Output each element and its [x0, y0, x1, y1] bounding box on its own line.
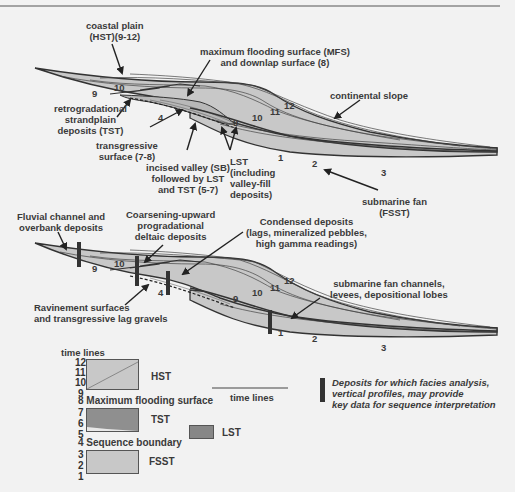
legend-lst-label: LST [222, 427, 241, 438]
legend-tst-label: TST [151, 414, 170, 425]
timeline-num: 10 [114, 258, 125, 269]
timeline-num: 2 [312, 333, 317, 344]
label-condensed: Condensed deposits (lags, mineralized pe… [246, 216, 367, 249]
legend-sb-label: 4 Sequence boundary [78, 437, 182, 448]
label-mfs: maximum flooding surface (MFS) and downl… [200, 46, 350, 68]
label-retrogradational: retrogradational strandplain deposits (T… [54, 103, 127, 136]
timeline-num: 12 [284, 100, 295, 111]
legend-num: 2 [78, 461, 84, 471]
legend-fsst-label: FSST [149, 456, 175, 467]
timeline-num: 1 [278, 152, 283, 163]
label-submarine-fan: submarine fan (FSST) [362, 196, 427, 218]
legend-mfs-label: 8 Maximum flooding surface [78, 395, 213, 406]
timeline-num: 10 [114, 82, 125, 93]
timeline-num: 1 [278, 327, 283, 338]
timeline-num: 4 [158, 287, 163, 298]
legend-num: 1 [78, 472, 84, 482]
timeline-num: 9 [233, 117, 238, 128]
label-lst: LST (including valley-fill deposits) [230, 156, 275, 200]
legend-num: 3 [78, 450, 84, 460]
profile-bar-3 [166, 271, 170, 295]
timeline-num: 3 [381, 167, 386, 178]
legend-num: 10 [75, 378, 86, 388]
label-ravinement: Ravinement surfaces and transgressive la… [34, 302, 168, 324]
label-fluvial: Fluvial channel and overbank deposits [17, 211, 105, 233]
timeline-num: 12 [284, 275, 295, 286]
profile-bar-4 [268, 310, 272, 334]
legend-lst-box [189, 425, 214, 439]
timeline-num: 2 [312, 158, 317, 169]
timeline-num: 9 [92, 88, 97, 99]
timeline-num: 9 [92, 263, 97, 274]
legend-tst-box [86, 408, 139, 432]
timeline-num: 10 [252, 112, 263, 123]
profile-bar-2 [135, 256, 139, 286]
timeline-num: 11 [270, 282, 280, 293]
label-transgressive-surface: transgressive surface (7-8) [96, 140, 158, 162]
label-continental-slope: continental slope [330, 90, 408, 101]
profile-bar-1 [77, 242, 81, 267]
legend-hst-label: HST [151, 371, 171, 382]
legend-fsst-box [86, 450, 139, 474]
legend-hst-box [86, 359, 139, 390]
timeline-num: 3 [381, 342, 386, 353]
label-incised-valley: incised valley (SB) followed by LST and … [146, 162, 230, 195]
timeline-num: 10 [252, 287, 263, 298]
time-lines-key-label: time lines [230, 392, 274, 403]
bar-key [320, 378, 325, 402]
timeline-num: 9 [233, 293, 238, 304]
bar-key-label: Deposits for which facies analysis, vert… [332, 377, 496, 410]
timeline-num: 11 [270, 106, 280, 117]
label-coastal-plain: coastal plain (HST)(9-12) [86, 20, 144, 42]
label-coarsening: Coarsening-upward progradational deltaic… [126, 209, 215, 242]
legend-num: 6 [78, 419, 84, 429]
legend-num: 7 [78, 408, 84, 418]
label-fan-channels: submarine fan channels, levees, depositi… [330, 278, 448, 300]
timeline-num: 4 [158, 112, 163, 123]
